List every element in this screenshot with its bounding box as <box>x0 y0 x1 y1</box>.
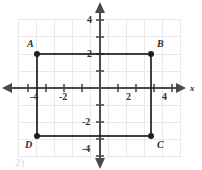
y-tick-label--2: -2 <box>82 117 90 127</box>
x-tick-label--4: -4 <box>30 92 38 102</box>
point-d-marker <box>34 133 40 139</box>
y-tick-label--4: -4 <box>82 144 90 154</box>
vertex-markers <box>34 51 154 139</box>
x-axis-label: x <box>190 84 195 93</box>
y-axis-arrow-up <box>95 2 105 13</box>
footer-artifact-text: 2) <box>15 157 24 168</box>
coordinate-plane-figure: -4 -2 2 4 4 2 -2 -4 x A B C D 2) <box>0 0 202 170</box>
y-axis-arrow-down <box>95 158 105 169</box>
point-c-label: C <box>157 140 164 150</box>
x-tick-label--2: -2 <box>59 92 67 102</box>
x-tick-label-2: 2 <box>126 92 131 102</box>
point-c-marker <box>148 133 154 139</box>
point-a-label: A <box>27 39 34 49</box>
x-axis-arrow-left <box>2 83 12 93</box>
y-tick-label-4: 4 <box>87 15 92 25</box>
x-tick-label-4: 4 <box>162 92 167 102</box>
point-b-label: B <box>157 39 164 49</box>
point-a-marker <box>34 51 40 57</box>
point-d-label: D <box>25 140 32 150</box>
x-axis-arrow-right <box>176 83 186 93</box>
y-axis <box>95 2 105 169</box>
y-tick-label-2: 2 <box>87 49 92 59</box>
point-b-marker <box>148 51 154 57</box>
